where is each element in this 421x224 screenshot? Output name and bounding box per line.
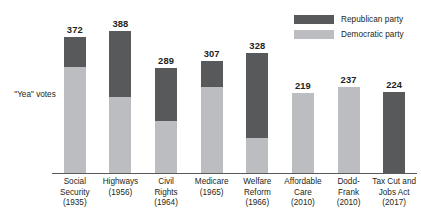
- bar-value-label-highways: 388: [96, 18, 144, 29]
- x-label-line: (1964): [143, 198, 189, 209]
- x-label-tax-cut-jobs-act: Tax Cut andJobs Act(2017): [371, 177, 417, 209]
- bar-value-label-welfare-reform: 328: [233, 40, 281, 51]
- x-label-civil-rights: CivilRights(1964): [143, 177, 189, 209]
- x-label-line: Welfare: [235, 177, 281, 188]
- bar-stack-social-security: [64, 37, 86, 174]
- x-label-line: Frank: [326, 188, 372, 199]
- bar-value-label-affordable-care: 219: [279, 80, 327, 91]
- bar-stack-medicare: [201, 61, 223, 174]
- x-axis-tick-labels: SocialSecurity(1935)Highways(1956)CivilR…: [52, 177, 417, 223]
- x-label-line: Dodd-: [326, 177, 372, 188]
- bar-segment-republican-tax-cut-jobs-act: [383, 92, 405, 174]
- bar-stack-highways: [109, 31, 131, 174]
- bar-segment-democratic-welfare-reform: [246, 138, 268, 174]
- bar-segment-democratic-civil-rights: [155, 121, 177, 174]
- x-label-line: (1965): [189, 188, 235, 199]
- bar-stack-affordable-care: [292, 93, 314, 174]
- bar-segment-republican-welfare-reform: [246, 53, 268, 138]
- bar-stack-dodd-frank: [338, 87, 360, 174]
- x-label-medicare: Medicare(1965): [189, 177, 235, 198]
- x-label-line: (1956): [98, 188, 144, 199]
- bar-segment-republican-social-security: [64, 37, 86, 67]
- x-label-social-security: SocialSecurity(1935): [52, 177, 98, 209]
- bar-segment-republican-medicare: [201, 61, 223, 87]
- x-label-line: (2010): [280, 198, 326, 209]
- bar-segment-democratic-social-security: [64, 67, 86, 174]
- bar-value-label-tax-cut-jobs-act: 224: [370, 79, 418, 90]
- x-label-line: Social: [52, 177, 98, 188]
- bar-segment-democratic-affordable-care: [292, 93, 314, 174]
- x-label-line: (1966): [235, 198, 281, 209]
- x-label-line: Civil: [143, 177, 189, 188]
- plot-area: 372388289307328219237224: [52, 20, 417, 174]
- x-label-welfare-reform: WelfareReform(1966): [235, 177, 281, 209]
- x-label-line: Affordable: [280, 177, 326, 188]
- bar-segment-republican-highways: [109, 31, 131, 97]
- bar-value-label-dodd-frank: 237: [325, 74, 373, 85]
- bar-stack-civil-rights: [155, 68, 177, 174]
- x-label-line: (2010): [326, 198, 372, 209]
- bar-stack-welfare-reform: [246, 53, 268, 174]
- x-label-line: Care: [280, 188, 326, 199]
- bar-stack-tax-cut-jobs-act: [383, 92, 405, 174]
- x-label-line: Security: [52, 188, 98, 199]
- bar-segment-democratic-highways: [109, 97, 131, 174]
- bar-value-label-social-security: 372: [51, 24, 99, 35]
- chart-figure: Republican party Democratic party "Yea" …: [0, 0, 421, 224]
- bar-segment-democratic-dodd-frank: [338, 87, 360, 174]
- x-axis-line: [52, 173, 417, 174]
- x-label-line: Rights: [143, 188, 189, 199]
- x-label-line: (2017): [371, 198, 417, 209]
- bar-segment-democratic-medicare: [201, 87, 223, 174]
- bar-segment-republican-civil-rights: [155, 68, 177, 121]
- x-label-dodd-frank: Dodd-Frank(2010): [326, 177, 372, 209]
- x-label-line: Highways: [98, 177, 144, 188]
- x-label-affordable-care: AffordableCare(2010): [280, 177, 326, 209]
- bar-value-label-civil-rights: 289: [142, 55, 190, 66]
- x-label-highways: Highways(1956): [98, 177, 144, 198]
- x-label-line: Reform: [235, 188, 281, 199]
- x-label-line: (1935): [52, 198, 98, 209]
- x-label-line: Tax Cut and: [371, 177, 417, 188]
- bar-value-label-medicare: 307: [188, 48, 236, 59]
- x-label-line: Medicare: [189, 177, 235, 188]
- x-label-line: Jobs Act: [371, 188, 417, 199]
